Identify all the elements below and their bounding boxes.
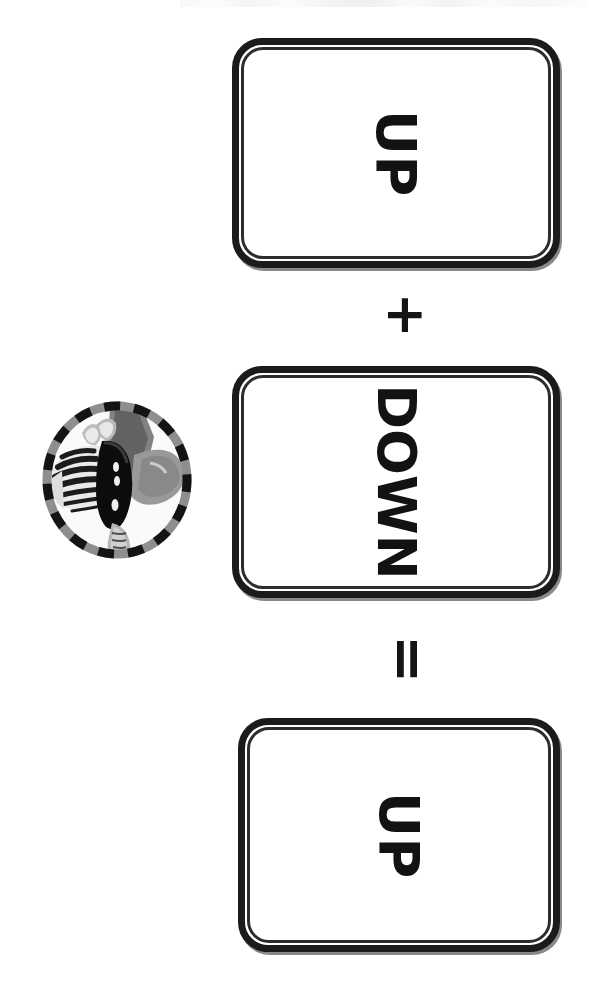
zebra-head-badge: [38, 397, 196, 563]
keycap-label-down: DOWN: [369, 384, 423, 580]
keycap-label-up-first: UP: [368, 110, 424, 197]
image-canvas: UP + DOWN: [0, 0, 590, 992]
scan-artifact: [180, 0, 588, 7]
keycap-label-up-result: UP: [371, 792, 427, 879]
plus-sign-icon: +: [379, 290, 433, 340]
keycap-down[interactable]: DOWN: [232, 366, 560, 598]
keycap-up-first[interactable]: UP: [232, 38, 560, 268]
keycap-up-result[interactable]: UP: [238, 718, 560, 952]
equals-sign-icon: =: [376, 632, 438, 686]
